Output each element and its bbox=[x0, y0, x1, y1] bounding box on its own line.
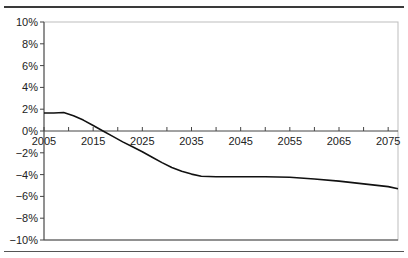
y-tick-label: 2% bbox=[22, 103, 38, 115]
x-tick-label: 2035 bbox=[179, 135, 203, 147]
x-tick-label: 2025 bbox=[130, 135, 154, 147]
y-tick-label: −6% bbox=[16, 190, 39, 202]
y-tick-label: 8% bbox=[22, 38, 38, 50]
line-chart: 10%8%6%4%2%0%−2%−4%−6%−8%−10%20052015202… bbox=[0, 0, 408, 258]
y-tick-label: −8% bbox=[16, 212, 39, 224]
y-tick-label: 6% bbox=[22, 60, 38, 72]
y-tick-label: −4% bbox=[16, 169, 39, 181]
y-tick-label: −10% bbox=[10, 234, 39, 246]
x-tick-label: 2055 bbox=[278, 135, 302, 147]
x-tick-label: 2075 bbox=[376, 135, 400, 147]
x-tick-label: 2065 bbox=[327, 135, 351, 147]
y-tick-label: 10% bbox=[16, 16, 38, 28]
y-tick-label: 4% bbox=[22, 81, 38, 93]
x-tick-label: 2005 bbox=[32, 135, 56, 147]
x-tick-label: 2015 bbox=[81, 135, 105, 147]
series-line bbox=[44, 113, 398, 189]
y-tick-label: −2% bbox=[16, 147, 39, 159]
x-tick-label: 2045 bbox=[228, 135, 252, 147]
